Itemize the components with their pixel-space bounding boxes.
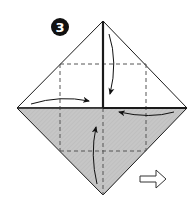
origami-diagram: 3	[0, 0, 192, 215]
step-badge: 3	[51, 18, 69, 36]
next-step-arrow-icon	[140, 170, 166, 188]
step-number: 3	[55, 20, 64, 35]
